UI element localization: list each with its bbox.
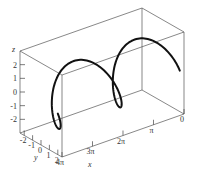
y-tick-label: -2 <box>20 136 27 145</box>
z-axis-ticks: -2-1012 <box>10 61 25 125</box>
box-edge <box>20 51 62 75</box>
y-tick-label: 2 <box>55 156 59 165</box>
box-edge <box>20 8 142 51</box>
box-edge <box>142 90 184 114</box>
z-tick-label: 0 <box>13 88 17 97</box>
y-axis-ticks: -2-1012 <box>20 130 59 164</box>
z-tick-label: -2 <box>10 115 17 124</box>
x-tick-label: 0 <box>180 115 184 124</box>
y-tick-label: -1 <box>28 141 35 150</box>
box-edge <box>62 32 184 75</box>
x-tick-label: π <box>149 126 153 135</box>
box-edge <box>20 90 142 133</box>
z-tick-label: -1 <box>10 102 17 111</box>
y-tick-label: 0 <box>38 146 42 155</box>
z-tick-label: 2 <box>13 61 17 70</box>
x-tick-label: 2π <box>117 137 125 146</box>
y-tick-label: 1 <box>46 151 50 160</box>
box-edge <box>142 8 184 32</box>
x-axis-ticks: 0π2π3π4π <box>56 109 184 167</box>
z-tick-label: 1 <box>13 74 17 83</box>
bounding-box <box>20 8 184 157</box>
y-axis-label: y <box>33 153 38 162</box>
x-tick-label: 3π <box>86 147 94 156</box>
helix-3d-plot: 0π2π3π4π -2-1012 -2-1012 x y z <box>0 0 197 182</box>
x-axis-label: x <box>87 160 92 169</box>
z-axis-label: z <box>11 45 16 54</box>
